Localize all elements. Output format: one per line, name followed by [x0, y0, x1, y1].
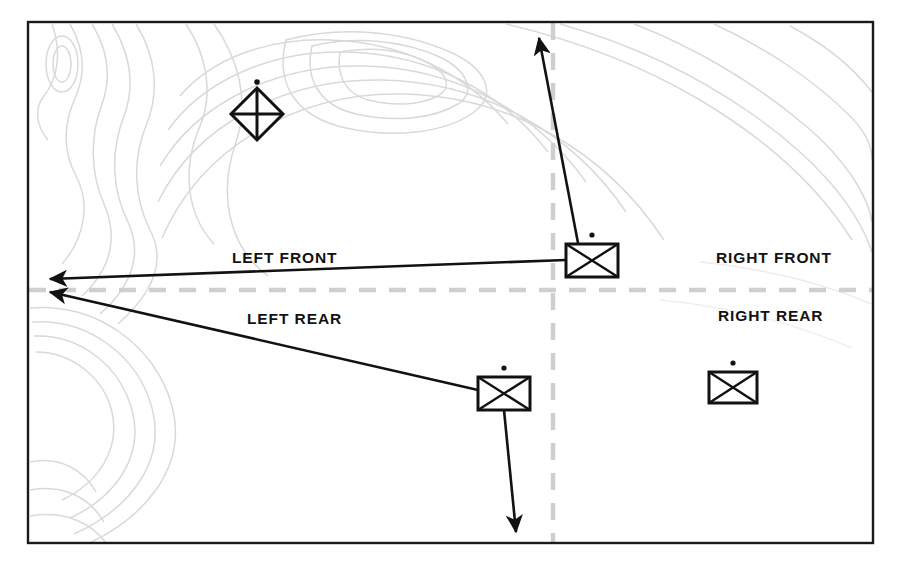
- echelon-dot-icon: [589, 232, 594, 237]
- tactical-diagram: LEFT FRONT RIGHT FRONT LEFT REAR RIGHT R…: [0, 0, 901, 576]
- echelon-dot-icon: [254, 79, 260, 85]
- echelon-dot-icon: [730, 360, 735, 365]
- sector-label-right-rear: RIGHT REAR: [718, 307, 823, 325]
- sector-label-left-rear: LEFT REAR: [247, 310, 342, 328]
- sector-label-right-front: RIGHT FRONT: [716, 249, 832, 267]
- sector-label-left-front: LEFT FRONT: [232, 249, 337, 267]
- echelon-dot-icon: [501, 365, 506, 370]
- diagram-canvas: [0, 0, 901, 576]
